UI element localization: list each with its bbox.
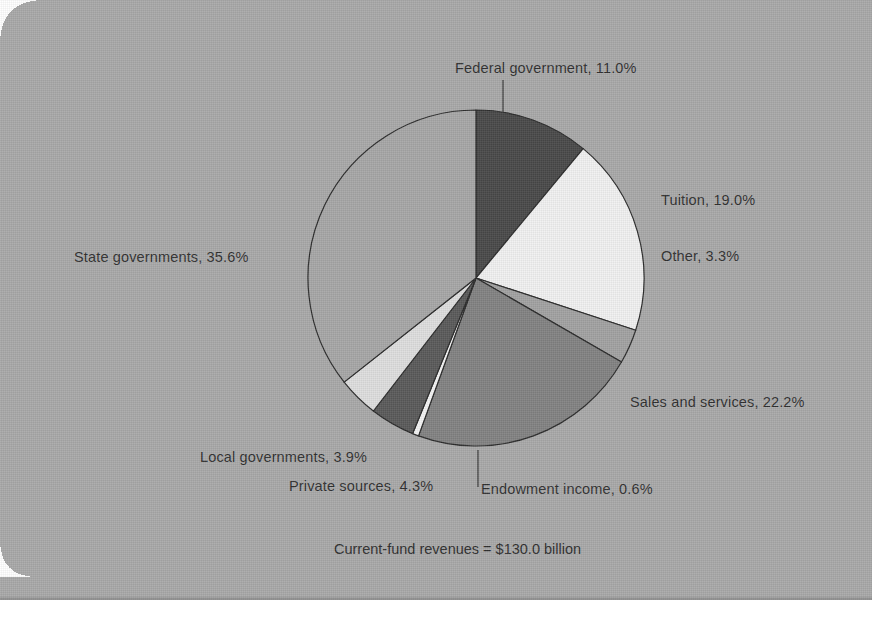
page-corner-bottom-left	[0, 547, 30, 577]
label-federal-government: Federal government, 11.0%	[455, 60, 637, 76]
pie-slices: Federal government, 11.0%Tuition, 19.0%O…	[308, 110, 644, 446]
scanned-page-area: Federal government, 11.0%Tuition, 19.0%O…	[0, 0, 872, 600]
label-other: Other, 3.3%	[661, 248, 739, 264]
label-tuition: Tuition, 19.0%	[661, 192, 755, 208]
label-private-sources: Private sources, 4.3%	[289, 478, 433, 494]
page-edge-bottom	[0, 600, 890, 623]
label-endowment-income: Endowment income, 0.6%	[481, 481, 653, 497]
figure-page: Federal government, 11.0%Tuition, 19.0%O…	[0, 0, 890, 623]
pie-chart: Federal government, 11.0%Tuition, 19.0%O…	[0, 0, 872, 600]
label-state-governments: State governments, 35.6%	[74, 249, 248, 265]
chart-caption: Current-fund revenues = $130.0 billion	[334, 541, 581, 557]
page-edge-right	[872, 0, 890, 623]
label-sales-and-services: Sales and services, 22.2%	[630, 394, 805, 410]
page-corner-top-left	[0, 0, 36, 36]
label-local-governments: Local governments, 3.9%	[200, 449, 367, 465]
